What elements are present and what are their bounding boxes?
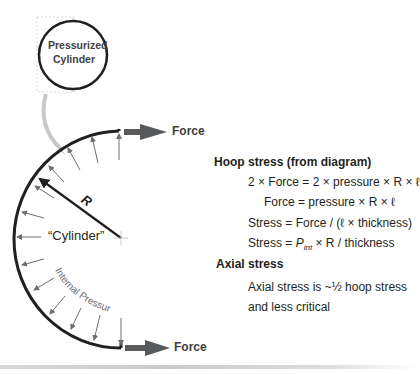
force-arrow-top	[124, 124, 167, 140]
eq4-suffix: × R / thickness	[312, 236, 394, 250]
axial-heading: Axial stress	[216, 257, 283, 271]
eq4-prefix: Stress =	[248, 236, 296, 250]
eq4-sub: int	[304, 243, 312, 252]
axial-line1: Axial stress is ~½ hoop stress	[248, 280, 407, 294]
force-arrow-bottom	[125, 340, 170, 356]
leader-curve	[44, 94, 62, 150]
eq4-p: P	[296, 236, 304, 250]
inset-label-line1: Pressurized	[48, 38, 100, 52]
inset-label: Pressurized Cylinder	[48, 38, 100, 66]
axial-line2: and less critical	[248, 300, 330, 314]
hoop-eq2: Force = pressure × R × ℓ	[264, 195, 395, 209]
cylinder-label: “Cylinder”	[48, 228, 104, 243]
inset-label-line2: Cylinder	[48, 52, 100, 66]
force-top-label: Force	[172, 124, 205, 138]
hoop-eq3: Stress = Force / (ℓ × thickness)	[248, 216, 412, 230]
force-bottom-label: Force	[174, 340, 207, 354]
bottom-shadow	[0, 365, 417, 369]
hoop-heading: Hoop stress (from diagram)	[214, 155, 371, 169]
hoop-eq4: Stress = Pint × R / thickness	[248, 236, 395, 252]
hoop-eq1: 2 × Force = 2 × pressure × R × ℓ	[248, 175, 420, 189]
